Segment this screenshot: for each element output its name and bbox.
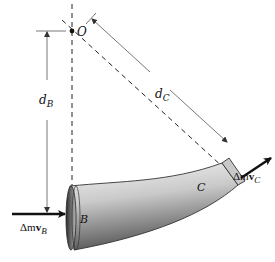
- label-dB: dB: [39, 93, 54, 109]
- label-point-O: O: [77, 25, 87, 39]
- dC-dimension-line-upper: [92, 19, 150, 72]
- dashed-line-O-to-C: [62, 20, 224, 168]
- label-dC-sub: C: [163, 93, 170, 103]
- dC-dimension-line-lower: [170, 90, 227, 142]
- label-momentum-C-prefix: Δm: [233, 170, 249, 182]
- point-O-dot: [70, 29, 75, 34]
- label-section-C: C: [197, 181, 206, 194]
- label-dB-sub: B: [46, 99, 54, 109]
- label-section-B: B: [79, 213, 88, 226]
- label-momentum-C-sub: C: [254, 175, 261, 185]
- dC-extension-line: [86, 13, 96, 24]
- label-dC: dC: [155, 87, 170, 103]
- label-momentum-B-sub: B: [41, 226, 47, 236]
- pipe-end-B: [66, 186, 76, 250]
- curved-pipe-body: [70, 163, 238, 250]
- diagram-canvas: O dB dC B C ΔmvB ΔmvC: [0, 0, 275, 262]
- label-momentum-B: ΔmvB: [20, 221, 47, 236]
- label-momentum-B-prefix: Δm: [20, 221, 36, 233]
